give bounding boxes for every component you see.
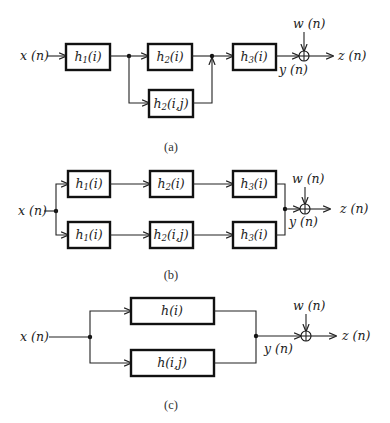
label-y: y (n) <box>288 214 318 229</box>
summing-junction-icon <box>299 51 309 61</box>
caption-c: (c) <box>164 398 178 412</box>
arrow <box>56 184 68 211</box>
block-top-h1-label: h1(i) <box>75 176 102 192</box>
arrow <box>90 311 131 337</box>
block-top-h3-label: h3(i) <box>240 176 267 192</box>
output-label-z: z (n) <box>337 48 366 63</box>
caption-b: (b) <box>164 268 179 282</box>
arrow <box>129 56 149 103</box>
summing-junction-icon <box>300 204 310 214</box>
block-diagram-figure: x (n) h1(i) h2(i) h2(i,j) h3(i) y (n) w … <box>0 0 390 423</box>
input-label-x: x (n) <box>20 329 49 344</box>
output-label-z: z (n) <box>341 328 370 343</box>
input-label-x: x (n) <box>18 203 47 218</box>
arrow <box>56 211 68 235</box>
label-y: y (n) <box>263 341 293 356</box>
arrow <box>90 337 131 363</box>
block-h2-linear-label: h2(i) <box>156 49 183 65</box>
block-bottom-h3-label: h3(i) <box>240 227 267 243</box>
label-w: w (n) <box>293 298 326 313</box>
label-y: y (n) <box>278 62 308 77</box>
block-h3-label: h3(i) <box>240 49 267 65</box>
diagram-c: x (n) h(i) h(i,j) y (n) w (n) z (n) (c) <box>20 298 370 412</box>
block-bottom-h1-label: h1(i) <box>75 227 102 243</box>
block-h-linear-label: h(i) <box>161 303 183 318</box>
block-bottom-h2-label: h2(i,j) <box>153 227 188 243</box>
input-label-x: x (n) <box>20 48 49 63</box>
block-top-h2-label: h2(i) <box>157 176 184 192</box>
label-w: w (n) <box>293 16 326 31</box>
diagram-b: x (n) h1(i) h2(i) h3(i) h1(i) h2(i,j) h3… <box>18 171 368 282</box>
diagram-a: x (n) h1(i) h2(i) h2(i,j) h3(i) y (n) w … <box>20 16 366 154</box>
block-h1-label: h1(i) <box>74 49 101 65</box>
block-h2-nonlinear-label: h2(i,j) <box>153 96 188 112</box>
caption-a: (a) <box>164 140 178 154</box>
arrow <box>193 58 212 103</box>
label-w: w (n) <box>292 171 325 186</box>
output-label-z: z (n) <box>339 201 368 216</box>
summing-junction-icon <box>301 331 311 341</box>
block-h-nonlinear-label: h(i,j) <box>157 355 187 370</box>
